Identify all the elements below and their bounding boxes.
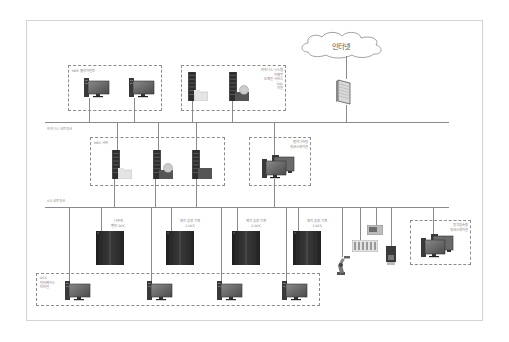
firewall-icon xyxy=(334,78,354,106)
dual-workstation-icon xyxy=(421,234,455,258)
text-line: 지원 xyxy=(250,86,283,91)
link xyxy=(196,122,197,150)
text-line: 밸브 DCS xyxy=(103,224,133,229)
mes-servers-label: MES 서버 xyxy=(94,141,108,146)
business-network-line xyxy=(45,122,449,123)
text-line: 2 DCS xyxy=(236,224,276,229)
link xyxy=(155,179,156,207)
link xyxy=(89,98,90,122)
workstation-icon xyxy=(129,78,155,98)
terminal-icon xyxy=(147,281,173,301)
database-icon xyxy=(198,168,212,179)
link xyxy=(196,179,197,207)
dcs-cabinet-icon xyxy=(232,231,260,265)
dcs-cabinet-icon xyxy=(96,231,124,265)
plc-rack-icon xyxy=(352,240,378,252)
text-line: 워크스테이션 xyxy=(270,145,308,150)
link xyxy=(274,179,275,207)
mes-clients-label: MES 클라이언트 xyxy=(72,69,95,74)
link xyxy=(433,207,434,234)
link xyxy=(114,179,115,207)
link xyxy=(101,207,102,231)
dual-workstation-icon xyxy=(262,155,296,179)
workstation-icon xyxy=(84,78,110,98)
link xyxy=(391,207,392,247)
file-storage-icon xyxy=(118,168,132,179)
link xyxy=(69,207,70,281)
link xyxy=(192,101,193,122)
text-line: 터미널 xyxy=(40,285,55,290)
business-network-label: 비즈니스 네트워크 xyxy=(47,126,72,131)
dcs-cabinet-icon xyxy=(166,231,194,265)
terminal-icon xyxy=(65,281,91,301)
text-line: 워크스테이션 xyxy=(430,228,468,233)
link xyxy=(134,98,135,122)
dcs-unit-label: 나무위 밸브 DCS xyxy=(103,219,133,228)
link xyxy=(232,101,233,122)
dcs-unit-label: 제지 공정 기계 2 DCS xyxy=(236,219,276,228)
link xyxy=(158,122,159,150)
link xyxy=(376,207,377,226)
mail-server-icon xyxy=(159,163,173,179)
dcs-unit-label: 제지 공정 기계 1 DCS xyxy=(170,219,210,228)
link xyxy=(286,207,287,281)
terminal-icon xyxy=(217,281,243,301)
text-line: 3 DCS xyxy=(297,224,337,229)
terminal-icon xyxy=(282,281,308,301)
link xyxy=(117,122,118,150)
hmi-panel-icon xyxy=(367,225,383,235)
link xyxy=(360,207,361,241)
mail-server-icon xyxy=(235,85,249,101)
link xyxy=(151,207,152,281)
robot-arm-icon xyxy=(333,250,353,276)
ics-network-line xyxy=(45,207,449,208)
link xyxy=(221,207,222,281)
remote-workstation-label: 원격접속용 워크스테이션 xyxy=(430,223,468,232)
ics-network-label: ICS 네트워크 xyxy=(47,198,65,203)
dcs-unit-label: 제지 공정 기계 3 DCS xyxy=(297,219,337,228)
file-storage-icon xyxy=(194,90,208,101)
dcs-interface-label: DCS 인터페이스 터미널 xyxy=(40,276,55,290)
engineering-workstation-label: 엔지니어링 워크스테이션 xyxy=(270,140,308,149)
firewall-link xyxy=(346,105,347,122)
internet-label: 인터넷 xyxy=(332,41,350,51)
link xyxy=(274,122,275,155)
dcs-cabinet-icon xyxy=(293,231,321,265)
internet-link xyxy=(346,56,347,79)
business-systems-label: 비즈니스 시스템 이메일 도메인 서비스 SQL 지원 xyxy=(250,68,283,91)
controller-icon xyxy=(386,246,396,265)
text-line: 1 DCS xyxy=(170,224,210,229)
